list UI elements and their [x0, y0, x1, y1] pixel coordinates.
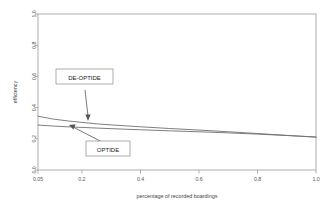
x-tick-label-0: 0.05	[33, 176, 43, 182]
y-tick-label-2: 0.4	[31, 104, 37, 111]
y-axis-title: efficiency	[12, 81, 18, 104]
y-tick-label-5: 1.0	[31, 10, 37, 17]
y-tick-label-4: 0.8	[31, 41, 37, 48]
x-tick-label-3: 0.6	[195, 176, 202, 182]
x-tick-label-5: 1.0	[312, 176, 319, 182]
x-tick-label-2: 0.4	[137, 176, 144, 182]
x-axis-title: percentage of recorded boardings	[137, 193, 218, 199]
y-tick-label-1: 0.2	[31, 135, 37, 142]
x-tick-label-4: 0.8	[254, 176, 261, 182]
efficiency-line-chart: 0.0 0.2 0.4 0.6 0.8 1.0 efficiency 0.05 …	[0, 0, 335, 211]
plot-area-frame	[38, 14, 316, 170]
x-tick-label-1: 0.2	[78, 176, 85, 182]
y-tick-label-3: 0.6	[31, 73, 37, 80]
y-tick-label-0: 0.0	[31, 166, 37, 173]
chart-figure: 0.0 0.2 0.4 0.6 0.8 1.0 efficiency 0.05 …	[0, 0, 335, 211]
annotation-label-optide: OPTIDE	[97, 147, 119, 153]
annotation-label-de-optide: DE-OPTIDE	[68, 75, 101, 81]
